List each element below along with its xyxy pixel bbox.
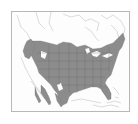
range-map-frame bbox=[11, 11, 130, 112]
florida bbox=[101, 87, 111, 100]
range-map bbox=[12, 12, 129, 111]
